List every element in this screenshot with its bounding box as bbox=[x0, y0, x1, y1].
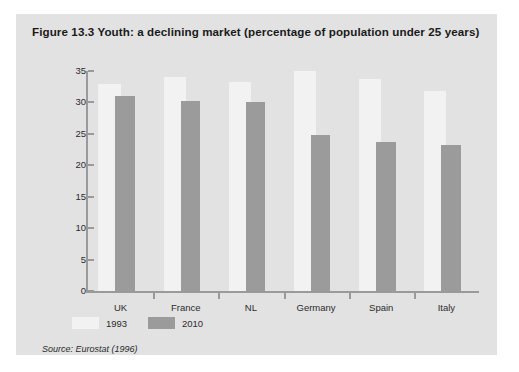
category-label: France bbox=[153, 302, 218, 313]
y-tick-label: 15 bbox=[64, 191, 86, 202]
bar-2010 bbox=[115, 96, 135, 291]
y-tick-label: 0 bbox=[64, 285, 86, 296]
bar-2010 bbox=[441, 145, 461, 291]
x-tick-mark bbox=[284, 293, 286, 299]
chart-plot-area: 05101520253035 UKFranceNLGermanySpainIta… bbox=[56, 66, 481, 298]
legend-entry-2010: 2010 bbox=[148, 317, 203, 329]
y-tick-label: 10 bbox=[64, 222, 86, 233]
x-tick-mark bbox=[218, 293, 220, 299]
bar-2010 bbox=[181, 101, 201, 291]
x-tick-mark bbox=[414, 293, 416, 299]
bar-group bbox=[349, 71, 414, 291]
y-tick-label: 35 bbox=[64, 65, 86, 76]
y-tick-label: 5 bbox=[64, 254, 86, 265]
bar-group bbox=[153, 71, 218, 291]
y-tick-label: 30 bbox=[64, 96, 86, 107]
x-tick-mark bbox=[349, 293, 351, 299]
y-tick-label: 20 bbox=[64, 159, 86, 170]
legend-label-1993: 1993 bbox=[106, 318, 127, 329]
source-note: Source: Eurostat (1996) bbox=[42, 344, 138, 354]
x-axis-line bbox=[86, 291, 479, 293]
category-label: Germany bbox=[284, 302, 349, 313]
x-tick-mark bbox=[153, 293, 155, 299]
category-label: Spain bbox=[349, 302, 414, 313]
figure-caption: Figure 13.3 Youth: a declining market (p… bbox=[32, 24, 482, 40]
legend-entry-1993: 1993 bbox=[72, 317, 127, 329]
bar-group bbox=[88, 71, 153, 291]
bars-layer bbox=[88, 71, 479, 291]
legend-label-2010: 2010 bbox=[182, 318, 203, 329]
bar-group bbox=[414, 71, 479, 291]
y-tick-label: 25 bbox=[64, 128, 86, 139]
legend-swatch-1993 bbox=[72, 317, 99, 329]
bar-2010 bbox=[311, 135, 331, 291]
figure-panel: Figure 13.3 Youth: a declining market (p… bbox=[16, 14, 497, 355]
figure-caption-text: Figure 13.3 Youth: a declining market (p… bbox=[32, 25, 479, 38]
category-label: NL bbox=[218, 302, 283, 313]
bar-2010 bbox=[376, 142, 396, 291]
category-label: UK bbox=[88, 302, 153, 313]
bar-group bbox=[284, 71, 349, 291]
legend-swatch-2010 bbox=[148, 317, 175, 329]
bar-2010 bbox=[246, 102, 266, 291]
category-label: Italy bbox=[414, 302, 479, 313]
bar-group bbox=[218, 71, 283, 291]
